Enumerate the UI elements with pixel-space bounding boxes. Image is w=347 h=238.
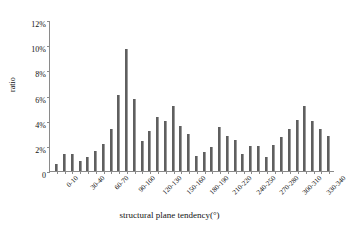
bar	[187, 134, 190, 172]
x-axis-tick-mark	[282, 171, 283, 174]
bar-slot	[138, 21, 146, 171]
x-axis-tick-mark	[329, 171, 330, 174]
bar-slot	[255, 21, 263, 171]
bar	[133, 99, 136, 172]
bar	[141, 141, 144, 171]
y-axis-tick-mark	[47, 172, 50, 173]
x-axis-tick-mark	[197, 171, 198, 174]
y-axis-tick-label: 0	[42, 172, 46, 180]
bar-slot	[193, 21, 201, 171]
bar-slot	[154, 21, 162, 171]
x-axis-tick-mark	[181, 171, 182, 174]
x-axis-tick-mark	[57, 171, 58, 174]
bar-slot	[115, 21, 123, 171]
bar	[296, 120, 299, 171]
x-axis-tick-mark	[314, 171, 315, 174]
x-axis-tick-mark	[119, 171, 120, 174]
bar	[94, 151, 97, 171]
x-axis-tick-mark	[298, 171, 299, 174]
bar-slot	[293, 21, 301, 171]
bar-slot	[146, 21, 154, 171]
bar	[55, 164, 58, 172]
x-axis-tick-label: 270-280	[279, 175, 300, 196]
y-axis-tick-mark	[47, 147, 50, 148]
x-axis-tick-mark	[321, 171, 322, 174]
x-axis-title: structural plane tendency(°)	[0, 210, 339, 220]
bar-slot	[270, 21, 278, 171]
x-axis-tick-mark	[111, 171, 112, 174]
x-axis-tick-mark	[80, 171, 81, 174]
x-axis-tick-mark	[275, 171, 276, 174]
bar-slot	[301, 21, 309, 171]
bar	[125, 49, 128, 172]
y-axis-tick-label: 2%	[35, 147, 46, 155]
y-axis-tick-mark	[47, 46, 50, 47]
x-axis-tick-mark	[88, 171, 89, 174]
x-axis-tick-label: 330-340	[325, 175, 346, 196]
bar	[79, 161, 82, 171]
bar	[195, 156, 198, 171]
x-axis-tick-mark	[251, 171, 252, 174]
x-axis-tick-mark	[127, 171, 128, 174]
x-axis-tick-label: 120-130	[162, 175, 183, 196]
bar-slot	[286, 21, 294, 171]
y-axis-tick-mark	[47, 97, 50, 98]
bar	[102, 144, 105, 172]
bar-slot	[53, 21, 61, 171]
x-axis-tick-label: 0-10	[66, 175, 80, 189]
x-axis-tick-mark	[306, 171, 307, 174]
x-axis-tick-label: 210-220	[232, 175, 253, 196]
bar	[311, 121, 314, 171]
x-axis-tick-mark	[135, 171, 136, 174]
y-axis-tick-label: 4%	[35, 122, 46, 130]
bar	[272, 145, 275, 171]
bar	[327, 136, 330, 171]
x-axis-tick-mark	[205, 171, 206, 174]
bar	[148, 131, 151, 171]
x-axis-tick-mark	[236, 171, 237, 174]
y-axis-tick-label: 6%	[35, 97, 46, 105]
bar	[71, 154, 74, 172]
y-axis-tick-mark	[47, 71, 50, 72]
bar	[265, 157, 268, 171]
x-axis-tick-mark	[267, 171, 268, 174]
bar	[226, 136, 229, 171]
bar	[257, 146, 260, 171]
bar	[319, 129, 322, 172]
bar	[218, 127, 221, 171]
bar-slot	[185, 21, 193, 171]
x-axis-tick-mark	[228, 171, 229, 174]
y-axis-tick-mark	[47, 122, 50, 123]
bar	[86, 157, 89, 171]
x-axis-tick-mark	[220, 171, 221, 174]
x-axis-tick-mark	[244, 171, 245, 174]
y-axis-tick-mark	[47, 21, 50, 22]
bar	[288, 129, 291, 172]
bar-slot	[131, 21, 139, 171]
x-axis-tick-mark	[142, 171, 143, 174]
y-axis-title: ratio	[8, 77, 17, 92]
x-axis-tick-mark	[259, 171, 260, 174]
bar-slot	[239, 21, 247, 171]
bar	[203, 152, 206, 171]
x-axis-tick-mark	[96, 171, 97, 174]
y-axis-tick-label: 12%	[31, 21, 46, 29]
bar-slot	[61, 21, 69, 171]
bar	[234, 140, 237, 171]
bar-slot	[324, 21, 332, 171]
bar-slot	[200, 21, 208, 171]
x-axis-tick-label: 60-70	[113, 175, 130, 192]
bar	[156, 117, 159, 171]
bar	[110, 129, 113, 172]
x-axis-tick-mark	[189, 171, 190, 174]
bar-slot	[177, 21, 185, 171]
plot-area: 02%4%6%8%10%12% 0-1030-4060-7090-100120-…	[49, 21, 334, 172]
x-axis-tick-label: 300-310	[302, 175, 323, 196]
bar-slot	[262, 21, 270, 171]
x-axis-tick-label: 90-100	[138, 175, 157, 194]
bar-slot	[107, 21, 115, 171]
bar-slot	[231, 21, 239, 171]
bar	[210, 147, 213, 171]
x-axis-tick-mark	[212, 171, 213, 174]
